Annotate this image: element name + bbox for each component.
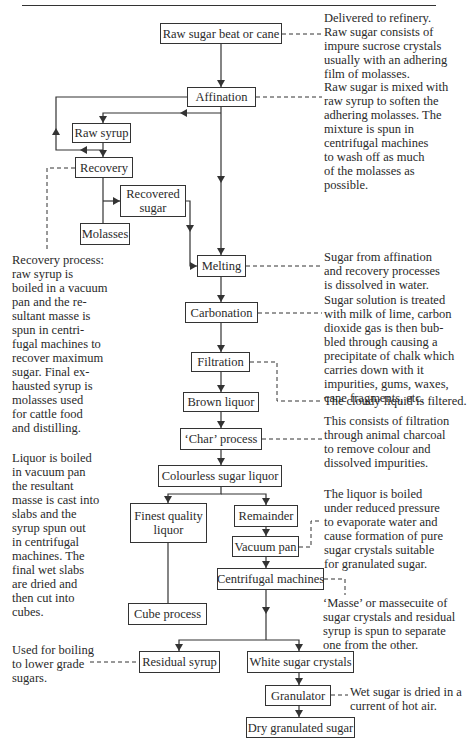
- arrowhead-down-icon: [217, 345, 225, 352]
- node-molasses: Molasses: [80, 223, 130, 245]
- node-vacuum-pan: Vacuum pan: [232, 536, 299, 557]
- note-residual: Used for boiling to lower grade sugars.: [12, 643, 94, 685]
- arrowhead-up-icon: [52, 128, 60, 135]
- arrowhead-down-icon: [295, 644, 303, 651]
- arrowhead-down-icon: [99, 116, 107, 123]
- node-finest-liquor: Finest quality liquor: [130, 503, 207, 543]
- flow-line: [179, 640, 266, 651]
- note-filtration: The cloudy liquid is filtered.: [324, 394, 467, 408]
- note-recovery: Recovery process: raw syrup is boiled in…: [12, 253, 107, 435]
- node-filtration: Filtration: [191, 352, 250, 372]
- node-centrifugal: Centrifugal machines: [217, 568, 324, 590]
- node-melting: Melting: [197, 255, 246, 277]
- arrowhead-down-icon: [217, 421, 225, 428]
- arrowhead-down-icon: [175, 644, 183, 651]
- node-colourless-liquor: Colourless sugar liquor: [158, 465, 282, 487]
- arrowhead-down-icon: [217, 80, 225, 87]
- note-raw-sugar: Delivered to refinery. Raw sugar consist…: [324, 11, 447, 81]
- arrowhead-right-icon: [190, 262, 197, 270]
- flow-line: [266, 640, 299, 651]
- note-carbonation: Sugar solution is treated with milk of l…: [324, 293, 454, 405]
- note-cube: Liquor is boiled in vacuum pan the resul…: [12, 451, 99, 619]
- flow-line: [168, 487, 221, 503]
- arrowhead-down-icon: [217, 248, 225, 255]
- arrowhead-down-icon: [262, 498, 270, 505]
- arrowhead-left-icon: [180, 109, 187, 117]
- arrowhead-down-icon: [262, 529, 270, 536]
- flow-line: [103, 113, 221, 123]
- node-white-crystals: White sugar crystals: [247, 651, 354, 673]
- dashed-leader-line: [47, 168, 75, 250]
- flow-line: [186, 201, 197, 266]
- note-char: This consists of filtration through anim…: [324, 414, 449, 470]
- dashed-leader-line: [250, 362, 322, 401]
- note-vacuum-pan: The liquor is boiled under reduced press…: [324, 487, 443, 571]
- node-brown-liquor: Brown liquor: [183, 392, 259, 412]
- node-recovered-sugar: Recovered sugar: [120, 185, 186, 217]
- node-raw-syrup: Raw syrup: [72, 123, 131, 143]
- node-remainder: Remainder: [234, 505, 298, 527]
- arrowhead-down-icon: [262, 561, 270, 568]
- note-granulator: Wet sugar is dried in a current of hot a…: [350, 685, 462, 713]
- arrowhead-down-icon: [295, 710, 303, 717]
- node-char-process: ‘Char’ process: [180, 428, 262, 450]
- arrowhead-down-icon: [186, 225, 194, 232]
- arrowhead-down-icon: [164, 496, 172, 503]
- node-cube-process: Cube process: [128, 603, 207, 625]
- note-melting: Sugar from affination and recovery proce…: [324, 250, 440, 292]
- node-raw-sugar: Raw sugar beat or cane: [160, 23, 282, 44]
- flow-line: [221, 494, 266, 505]
- arrowhead-down-icon: [295, 678, 303, 685]
- arrowhead-down-icon: [217, 295, 225, 302]
- node-residual-syrup: Residual syrup: [139, 651, 220, 673]
- arrowhead-left-icon: [80, 146, 87, 154]
- arrowhead-down-icon: [99, 150, 107, 157]
- node-carbonation: Carbonation: [185, 302, 258, 323]
- arrowhead-down-icon: [217, 385, 225, 392]
- arrowhead-down-icon: [217, 176, 225, 183]
- dashed-leader-line: [324, 579, 345, 595]
- node-affination: Affination: [187, 87, 256, 107]
- node-recovery: Recovery: [75, 157, 133, 178]
- arrowhead-right-icon: [113, 197, 120, 205]
- arrowhead-down-icon: [217, 458, 225, 465]
- note-centrifugal: ‘Masse’ or massecuite of sugar crystals …: [323, 596, 455, 652]
- node-dry-sugar: Dry granulated sugar: [246, 717, 355, 738]
- node-granulator: Granulator: [265, 685, 331, 706]
- arrowhead-down-icon: [262, 607, 270, 614]
- dashed-leader-line: [299, 521, 320, 547]
- note-affination: Raw sugar is mixed with raw syrup to sof…: [324, 80, 448, 192]
